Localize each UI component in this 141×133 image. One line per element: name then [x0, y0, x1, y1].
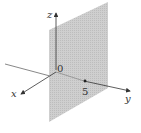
plane-y-equals-5 — [49, 2, 108, 122]
z-axis-label: z — [46, 9, 53, 20]
point-label-5: 5 — [82, 86, 88, 97]
origin-label: 0 — [57, 63, 63, 74]
y-axis-label: y — [124, 93, 131, 104]
x-axis-label: x — [11, 88, 17, 99]
coordinate-diagram: z 0 5 x y — [0, 0, 141, 133]
point-y-5 — [84, 80, 87, 83]
diagram-3d-plane: z 0 5 x y — [0, 0, 141, 133]
x-axis-back — [5, 64, 50, 76]
